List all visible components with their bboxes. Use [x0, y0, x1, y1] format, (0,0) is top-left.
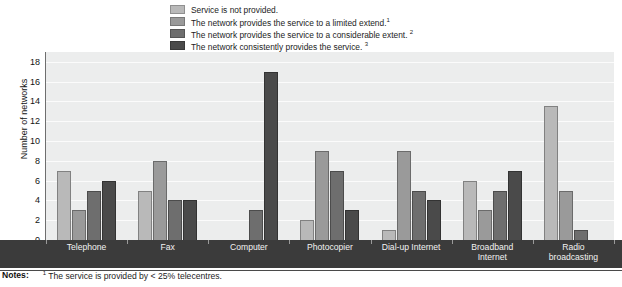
x-axis-tickmark [46, 240, 47, 244]
bar [478, 210, 492, 240]
x-tick-label-line: Computer [208, 242, 289, 252]
legend-item: The network provides the service to a li… [170, 16, 500, 27]
x-axis-tickmark [452, 240, 453, 244]
bar [153, 161, 167, 240]
x-tick-label-line: Broadband [452, 242, 533, 252]
bar [330, 171, 344, 240]
bar [183, 200, 197, 240]
x-tick-label-line: Telephone [46, 242, 127, 252]
bar [544, 106, 558, 240]
legend-footnote-marker: 3 [365, 41, 368, 47]
x-tick-label: Computer [208, 240, 289, 268]
x-tick-label: Telephone [46, 240, 127, 268]
bar-group [208, 52, 289, 240]
bar [102, 181, 116, 240]
bar [382, 230, 396, 240]
y-axis-ticks: 024681012141618 [14, 52, 40, 244]
y-tick-label: 16 [14, 77, 40, 86]
bar [345, 210, 359, 240]
y-tick-label: 6 [14, 176, 40, 185]
legend-swatch-icon [170, 29, 185, 38]
legend-swatch-icon [170, 5, 185, 14]
bar [315, 151, 329, 240]
x-tick-label-line: Radio [533, 242, 614, 252]
bar [397, 151, 411, 240]
bar [87, 191, 101, 240]
x-axis-tickmark [533, 240, 534, 244]
legend-swatch-icon [170, 17, 185, 26]
x-tick-label-line: Photocopier [289, 242, 370, 252]
legend-item-label: The network provides the service to a li… [191, 15, 390, 28]
bar-group [127, 52, 208, 240]
legend-item: Service is not provided. [170, 4, 500, 15]
chart-legend: Service is not provided.The network prov… [170, 4, 500, 52]
x-axis-tickmark [289, 240, 290, 244]
x-tick-label: Fax [127, 240, 208, 268]
bar-group [452, 52, 533, 240]
bar [559, 191, 573, 240]
bar [412, 191, 426, 240]
y-tick-label: 4 [14, 196, 40, 205]
x-tick-label: Radiobroadcasting [533, 240, 614, 268]
x-axis-tickmark [208, 240, 209, 244]
plot-area [45, 52, 614, 240]
bar [508, 171, 522, 240]
x-axis-tickmark [614, 240, 615, 244]
y-tick-label: 12 [14, 117, 40, 126]
bar [300, 220, 314, 240]
y-tick-label: 18 [14, 57, 40, 66]
x-tick-label-line: Fax [127, 242, 208, 252]
bar [493, 191, 507, 240]
legend-item-label: The network consistently provides the se… [191, 39, 368, 52]
y-tick-label: 10 [14, 137, 40, 146]
bar [72, 210, 86, 240]
bar-group [533, 52, 614, 240]
notes-text: 1 The service is provided by < 25% telec… [43, 270, 222, 281]
bar-group [46, 52, 127, 240]
legend-swatch-icon [170, 41, 185, 50]
x-axis-labels: TelephoneFaxComputerPhotocopierDial-up I… [46, 240, 614, 268]
y-tick-label: 2 [14, 216, 40, 225]
legend-footnote-marker: 1 [387, 17, 390, 23]
notes-row: Notes: 1 The service is provided by < 25… [0, 270, 622, 287]
bar [138, 191, 152, 240]
bar [264, 72, 278, 240]
bar [168, 200, 182, 240]
x-tick-label: Photocopier [289, 240, 370, 268]
bar-group [289, 52, 370, 240]
bar [574, 230, 588, 240]
x-axis-tickmark [127, 240, 128, 244]
x-tick-label: Dial-up Internet [371, 240, 452, 268]
x-tick-label-line: broadcasting [533, 252, 614, 262]
y-tick-label: 8 [14, 156, 40, 165]
legend-footnote-marker: 2 [410, 29, 413, 35]
bar [463, 181, 477, 240]
legend-item: The network provides the service to a co… [170, 28, 500, 39]
bar-groups [46, 52, 614, 240]
x-tick-label: BroadbandInternet [452, 240, 533, 268]
x-tick-label-line: Dial-up Internet [371, 242, 452, 252]
legend-item-label: The network provides the service to a co… [191, 27, 413, 40]
x-axis-tickmark [371, 240, 372, 244]
chart-figure: Service is not provided.The network prov… [0, 0, 622, 287]
bar-group [371, 52, 452, 240]
y-tick-label: 14 [14, 97, 40, 106]
bar [427, 200, 441, 240]
notes-label: Notes: [2, 270, 29, 280]
x-tick-label-line: Internet [452, 252, 533, 262]
bar [57, 171, 71, 240]
notes-body: The service is provided by < 25% telecen… [46, 271, 222, 281]
notes-divider [0, 270, 622, 271]
legend-item-label: Service is not provided. [191, 5, 278, 15]
legend-item: The network consistently provides the se… [170, 40, 500, 51]
plot-wrapper: Number of networks 024681012141618 [0, 52, 622, 244]
bar [249, 210, 263, 240]
